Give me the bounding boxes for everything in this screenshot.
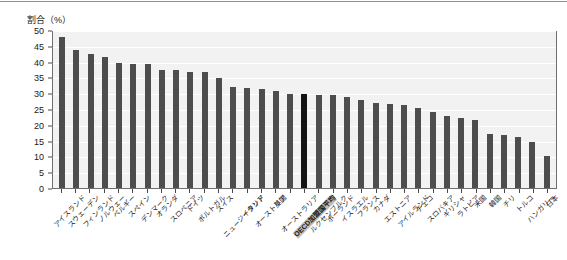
x-axis-label-slot: ポルトガル xyxy=(197,193,211,255)
x-axis-label-slot: OECD加盟国平均 xyxy=(297,193,311,255)
chart-figure: 割合（%） 50454035302520151050 アイスランドスウェーデンフ… xyxy=(0,0,567,260)
x-axis-label-slot: ドイツ xyxy=(183,193,197,255)
bar xyxy=(415,108,421,188)
y-axis-tick-label: 25 xyxy=(34,105,44,115)
bar xyxy=(116,63,122,188)
bar xyxy=(159,70,165,188)
bar xyxy=(444,116,450,188)
bar-slot xyxy=(255,32,269,188)
x-axis-label-slot: フィンランド xyxy=(83,193,97,255)
x-axis-label-slot: スペイン xyxy=(126,193,140,255)
bar-slot xyxy=(283,32,297,188)
bar-slot xyxy=(340,32,354,188)
bar xyxy=(472,120,478,188)
bar xyxy=(102,57,108,188)
bar xyxy=(230,87,236,188)
bar-slot xyxy=(84,32,98,188)
bar xyxy=(544,156,550,188)
x-axis-label-slot: フランス xyxy=(355,193,369,255)
bar-slot xyxy=(269,32,283,188)
bar-slot xyxy=(226,32,240,188)
bar-slot xyxy=(440,32,454,188)
x-axis-label-slot: ルクセンブルク xyxy=(312,193,326,255)
y-axis-tick-label: 0 xyxy=(39,184,44,194)
bar-slot xyxy=(169,32,183,188)
bar-slot xyxy=(297,32,311,188)
bar xyxy=(187,72,193,188)
x-axis-label-slot: スロバキア xyxy=(426,193,440,255)
x-axis-label-slot: ラトビア xyxy=(455,193,469,255)
bar-series xyxy=(53,32,556,188)
bar xyxy=(244,88,250,188)
bar-slot xyxy=(497,32,511,188)
y-axis-tick-label: 30 xyxy=(34,89,44,99)
bar-slot xyxy=(354,32,368,188)
x-axis-label-slot: ニュージーランド xyxy=(226,193,240,255)
x-axis-label-slot: エストニア xyxy=(383,193,397,255)
x-axis-labels: アイスランドスウェーデンフィンランドノルウェーベルギースペインデンマークオランダ… xyxy=(52,193,557,255)
bar-slot xyxy=(155,32,169,188)
x-axis-label-slot: ベルギー xyxy=(111,193,125,255)
bar-slot xyxy=(369,32,383,188)
figure-top-rule xyxy=(0,1,567,2)
bar xyxy=(458,118,464,188)
bar xyxy=(330,95,336,188)
x-axis-label-slot: ギリシャ xyxy=(440,193,454,255)
bar xyxy=(373,103,379,188)
bar xyxy=(145,64,151,188)
bar-slot xyxy=(183,32,197,188)
bar-slot xyxy=(525,32,539,188)
x-axis-label-slot: 韓国 xyxy=(483,193,497,255)
x-axis-label-slot: カナダ xyxy=(369,193,383,255)
x-axis-label-slot: オランダ xyxy=(154,193,168,255)
x-axis-label-slot: ハンガリー xyxy=(526,193,540,255)
x-axis-label-slot: オーストリア xyxy=(254,193,268,255)
y-axis-tick-label: 45 xyxy=(34,42,44,52)
bar xyxy=(358,100,364,188)
bar xyxy=(501,135,507,188)
bar-slot xyxy=(112,32,126,188)
x-axis-label-slot: デンマーク xyxy=(140,193,154,255)
y-axis-tick-label: 50 xyxy=(34,26,44,36)
bar-slot xyxy=(483,32,497,188)
bar-slot xyxy=(411,32,425,188)
x-axis-label-slot: アイルランド xyxy=(398,193,412,255)
bar-slot xyxy=(126,32,140,188)
bar xyxy=(287,94,293,188)
bar xyxy=(130,64,136,189)
y-axis-tick-label: 5 xyxy=(39,168,44,178)
x-axis-label-slot: ノルウェー xyxy=(97,193,111,255)
bar xyxy=(344,97,350,188)
y-axis-tick-label: 10 xyxy=(34,152,44,162)
y-axis-tick-label: 20 xyxy=(34,121,44,131)
bar-slot xyxy=(98,32,112,188)
bar xyxy=(387,104,393,188)
bar-slot xyxy=(69,32,83,188)
bar-slot xyxy=(426,32,440,188)
bar xyxy=(301,94,307,188)
y-axis-title: 割合（%） xyxy=(27,13,71,26)
bar-slot xyxy=(468,32,482,188)
y-axis-tick-label: 15 xyxy=(34,137,44,147)
bar xyxy=(73,50,79,188)
x-axis-label-slot: チリ xyxy=(498,193,512,255)
plot-area xyxy=(52,31,557,189)
bar-slot xyxy=(55,32,69,188)
bar xyxy=(487,134,493,188)
x-axis-label-slot: ポーランド xyxy=(326,193,340,255)
x-axis-label-slot: スウェーデン xyxy=(68,193,82,255)
bar xyxy=(316,95,322,188)
bar-slot xyxy=(240,32,254,188)
x-axis-label-slot: トルコ xyxy=(512,193,526,255)
bar-slot xyxy=(454,32,468,188)
y-axis-tick-label: 40 xyxy=(34,58,44,68)
bar-slot xyxy=(397,32,411,188)
y-axis-tick-label: 35 xyxy=(34,73,44,83)
bar xyxy=(515,137,521,189)
bar-slot xyxy=(511,32,525,188)
bar xyxy=(273,91,279,188)
bar-slot xyxy=(326,32,340,188)
x-axis-label-slot: 米国 xyxy=(469,193,483,255)
bar-slot xyxy=(212,32,226,188)
x-axis-label-slot: イスラエル xyxy=(340,193,354,255)
